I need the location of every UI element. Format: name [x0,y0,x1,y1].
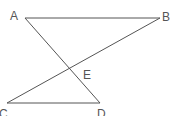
point-label-E: E [83,68,91,82]
geometry-diagram: ABCDE [0,0,171,116]
point-labels: ABCDE [0,9,170,116]
segment-BC [7,18,160,103]
point-label-D: D [97,107,106,116]
point-label-C: C [0,107,8,116]
segments [7,18,160,103]
point-label-B: B [162,10,170,24]
segment-AD [25,18,100,103]
point-label-A: A [10,9,18,23]
